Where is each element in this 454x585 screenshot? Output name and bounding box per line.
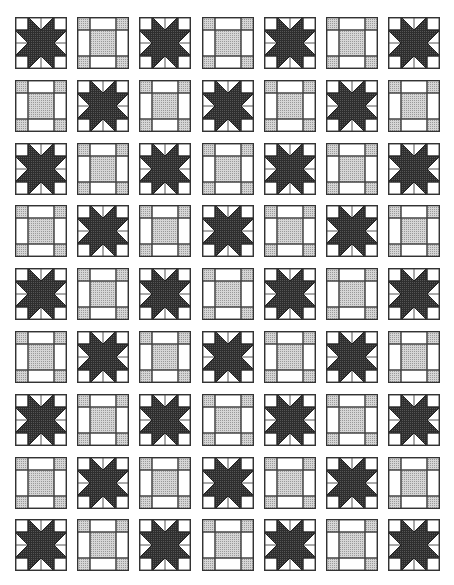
square-block bbox=[202, 17, 254, 69]
star-block bbox=[264, 17, 316, 69]
star-block bbox=[139, 394, 191, 446]
square-block bbox=[202, 268, 254, 320]
star-block bbox=[326, 80, 378, 132]
star-block bbox=[15, 519, 67, 571]
square-block bbox=[139, 80, 191, 132]
square-block bbox=[77, 394, 129, 446]
square-block bbox=[202, 519, 254, 571]
star-block bbox=[388, 394, 440, 446]
square-block bbox=[15, 331, 67, 383]
star-block bbox=[202, 80, 254, 132]
star-block bbox=[139, 143, 191, 195]
star-block bbox=[202, 457, 254, 509]
star-block bbox=[264, 143, 316, 195]
star-block bbox=[15, 143, 67, 195]
square-block bbox=[264, 457, 316, 509]
square-block bbox=[202, 394, 254, 446]
square-block bbox=[326, 268, 378, 320]
star-block bbox=[77, 80, 129, 132]
star-block bbox=[139, 519, 191, 571]
star-block bbox=[139, 17, 191, 69]
square-block bbox=[139, 457, 191, 509]
square-block bbox=[388, 205, 440, 257]
square-block bbox=[77, 17, 129, 69]
star-block bbox=[139, 268, 191, 320]
star-block bbox=[388, 17, 440, 69]
star-block bbox=[388, 519, 440, 571]
square-block bbox=[264, 205, 316, 257]
square-block bbox=[326, 143, 378, 195]
square-block bbox=[15, 205, 67, 257]
star-block bbox=[388, 143, 440, 195]
square-block bbox=[326, 394, 378, 446]
star-block bbox=[264, 268, 316, 320]
star-block bbox=[77, 205, 129, 257]
square-block bbox=[77, 268, 129, 320]
square-block bbox=[388, 331, 440, 383]
star-block bbox=[264, 519, 316, 571]
star-block bbox=[77, 457, 129, 509]
square-block bbox=[388, 457, 440, 509]
square-block bbox=[139, 205, 191, 257]
star-block bbox=[326, 331, 378, 383]
star-block bbox=[77, 331, 129, 383]
square-block bbox=[326, 519, 378, 571]
star-block bbox=[15, 268, 67, 320]
square-block bbox=[326, 17, 378, 69]
square-block bbox=[15, 457, 67, 509]
square-block bbox=[15, 80, 67, 132]
square-block bbox=[139, 331, 191, 383]
square-block bbox=[77, 143, 129, 195]
star-block bbox=[326, 457, 378, 509]
square-block bbox=[264, 331, 316, 383]
square-block bbox=[388, 80, 440, 132]
square-block bbox=[202, 143, 254, 195]
star-block bbox=[388, 268, 440, 320]
star-block bbox=[264, 394, 316, 446]
star-block bbox=[326, 205, 378, 257]
star-block bbox=[202, 331, 254, 383]
square-block bbox=[264, 80, 316, 132]
square-block bbox=[77, 519, 129, 571]
star-block bbox=[202, 205, 254, 257]
star-block bbox=[15, 394, 67, 446]
star-block bbox=[15, 17, 67, 69]
